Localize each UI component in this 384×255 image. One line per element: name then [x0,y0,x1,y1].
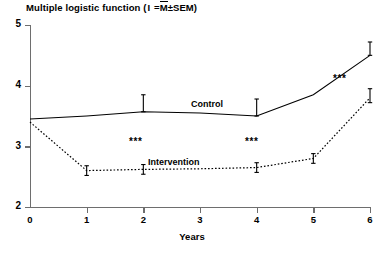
plot-area [0,0,384,255]
series-line-control [30,55,370,119]
significance-marker-year2: *** [129,136,142,147]
chart-figure: Multiple logistic function (I =M±SEM) 5 … [0,0,384,255]
series-label-control: Control [191,99,223,109]
significance-marker-year4: *** [245,136,258,147]
series-label-intervention: Intervention [148,157,200,167]
significance-marker-year6: *** [333,73,346,84]
